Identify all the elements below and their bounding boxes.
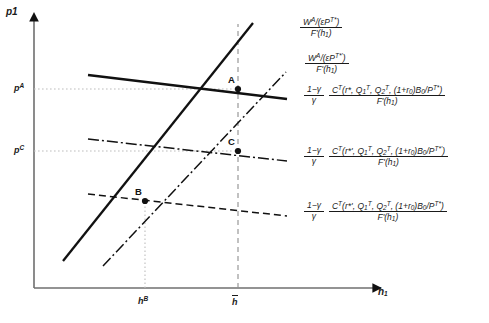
downward-dashdot-curve: [88, 139, 287, 161]
point-label-B: B: [135, 186, 142, 197]
upward-dashdot-line: [103, 72, 286, 266]
upward-solid-line: [63, 23, 253, 261]
point-marker-A: [235, 86, 241, 92]
x-tick-label-hB: hB: [138, 295, 148, 306]
downward-dashed-curve: [88, 194, 287, 216]
gamma-fraction: 1−γ γ: [304, 85, 324, 105]
dashdot-wage-curve-label: WA/(εPT*') F'(h1): [305, 52, 349, 74]
downward-solid-curve: [88, 75, 287, 99]
x-axis-label: h1: [378, 286, 388, 297]
x-tick-label-hbar: h: [232, 295, 238, 307]
gamma-fraction: 1−γ γ: [304, 201, 324, 221]
point-label-C: C: [228, 136, 235, 147]
y-axis-label: p1: [6, 6, 18, 17]
y-tick-label-pC: pC: [14, 144, 24, 155]
upper-solid-curve-label: WA/(εPT*) F'(h1): [300, 16, 342, 38]
dashed-cost-curve-label: 1−γ γ CT(r*', Q1T, Q2T, (1+r0)B0/PT*) F'…: [304, 200, 447, 222]
point-label-A: A: [228, 74, 235, 85]
dashdot-cost-curve-label: 1−γ γ CT(r*', Q1T, Q2T, (1+r0)B0/PT*') F…: [304, 145, 448, 167]
solid-cost-curve-label: 1−γ γ CT(r*, Q1T, Q2T, (1+r0)B0/PT*) F'(…: [304, 84, 445, 106]
point-marker-B: [142, 198, 148, 204]
economics-diagram: p1 h1 pA pC hB h A C B WA/(εPT*) F'(h1): [0, 0, 489, 323]
gamma-fraction: 1−γ γ: [304, 146, 324, 166]
point-marker-C: [235, 148, 241, 154]
y-tick-label-pA: pA: [14, 82, 24, 93]
